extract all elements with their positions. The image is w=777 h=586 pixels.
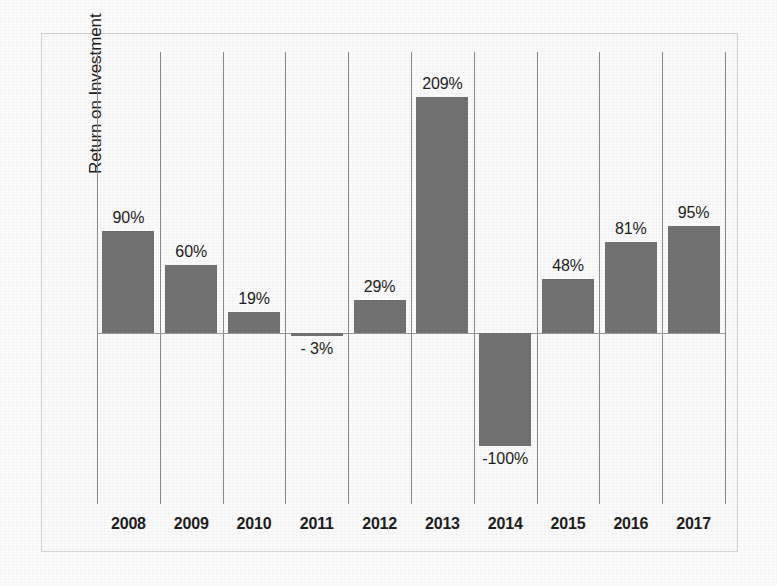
bar-value-label-2014: -100%	[474, 450, 537, 468]
x-axis-label-2013: 2013	[411, 515, 474, 533]
bar-value-label-2017: 95%	[662, 204, 725, 222]
bar-value-label-2008: 90%	[97, 209, 160, 227]
bar-value-label-2012: 29%	[348, 278, 411, 296]
bar-value-label-2010: 19%	[223, 290, 286, 308]
chart-frame: Return on Investment 90%60%19%- 3%29%209…	[41, 33, 738, 552]
gridline	[599, 52, 600, 504]
x-axis-label-2008: 2008	[97, 515, 160, 533]
gridline	[97, 52, 98, 504]
x-axis-label-2017: 2017	[662, 515, 725, 533]
bar-2016[interactable]	[605, 242, 657, 333]
zero-baseline	[97, 333, 725, 334]
x-axis-label-2016: 2016	[599, 515, 662, 533]
gridline	[537, 52, 538, 504]
bar-2008[interactable]	[102, 231, 154, 333]
bar-2013[interactable]	[416, 97, 468, 333]
plot-area: 90%60%19%- 3%29%209%-100%48%81%95%	[97, 52, 725, 504]
gridline	[662, 52, 663, 504]
x-axis-label-2010: 2010	[223, 515, 286, 533]
x-axis-label-2011: 2011	[285, 515, 348, 533]
x-axis-label-2015: 2015	[537, 515, 600, 533]
bar-value-label-2011: - 3%	[285, 340, 348, 358]
bar-value-label-2013: 209%	[411, 75, 474, 93]
bar-2015[interactable]	[542, 279, 594, 333]
bar-2014[interactable]	[479, 333, 531, 446]
bar-2012[interactable]	[354, 300, 406, 333]
bar-value-label-2015: 48%	[537, 257, 600, 275]
gridline	[411, 52, 412, 504]
x-axis-label-2009: 2009	[160, 515, 223, 533]
bar-2011[interactable]	[291, 333, 343, 336]
x-axis-label-2014: 2014	[474, 515, 537, 533]
gridline	[223, 52, 224, 504]
gridline	[725, 52, 726, 504]
gridline	[160, 52, 161, 504]
bar-2009[interactable]	[165, 265, 217, 333]
bar-2017[interactable]	[668, 226, 720, 333]
scanned-page: Return on Investment 90%60%19%- 3%29%209…	[0, 0, 777, 586]
bar-value-label-2009: 60%	[160, 243, 223, 261]
bar-2010[interactable]	[228, 312, 280, 333]
gridline	[474, 52, 475, 504]
x-axis-label-2012: 2012	[348, 515, 411, 533]
gridline	[285, 52, 286, 504]
bar-value-label-2016: 81%	[599, 220, 662, 238]
